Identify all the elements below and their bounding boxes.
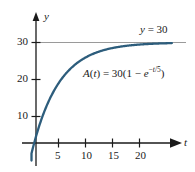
x-tick-label-20: 20 (135, 150, 146, 161)
asymptote-label-value: = 30 (145, 23, 168, 35)
equation-body: = 30(1 − (100, 67, 144, 79)
equation-tail: ) (161, 67, 165, 79)
y-tick-label-20: 20 (17, 73, 28, 84)
y-tick-label-30: 30 (17, 36, 28, 47)
x-axis-label: t (184, 137, 187, 148)
y-tick-label-10: 10 (17, 110, 28, 121)
equation-function-name: A (83, 67, 90, 79)
curve-equation-label: A(t) = 30(1 − e−t/5) (83, 66, 164, 79)
y-axis-arrowhead (33, 12, 40, 21)
exponential-growth-figure: 30 20 10 5 10 15 20 y t y = 30 A(t) = 30… (0, 0, 195, 172)
x-tick-label-10: 10 (81, 150, 92, 161)
x-tick-label-15: 15 (108, 150, 119, 161)
equation-exponent: −t/5 (149, 65, 161, 74)
y-axis-label: y (44, 11, 49, 22)
x-tick-label-5: 5 (55, 150, 61, 161)
x-axis-arrowhead (170, 138, 182, 148)
asymptote-label: y = 30 (140, 24, 168, 35)
